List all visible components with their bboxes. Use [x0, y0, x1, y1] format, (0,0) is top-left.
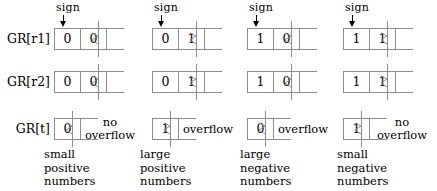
register-tail — [395, 28, 413, 50]
overflow-annotation-col-2: overflow — [178, 123, 238, 136]
break-zigzag-icon — [187, 75, 201, 90]
caption-col-2: large positive numbers — [140, 148, 191, 189]
caption-col-4: small negative numbers — [337, 148, 388, 189]
figure-canvas: sign GR[r1] 0 0 GR[r2] 0 0 GR[t] 0 no ov… — [0, 0, 437, 191]
bit-cell: 1 — [343, 28, 369, 50]
caption-line: small — [44, 148, 95, 162]
sign-arrow-icon-col-1 — [59, 15, 68, 27]
register-tail — [106, 71, 124, 93]
bit-cell: 1 — [343, 71, 369, 93]
break-zigzag-icon — [256, 122, 270, 137]
caption-line: large — [240, 148, 291, 162]
register-tail — [395, 71, 413, 93]
caption-line: numbers — [240, 175, 291, 189]
break-zigzag-icon — [187, 32, 201, 47]
sign-arrow-icon-col-4 — [348, 15, 357, 27]
caption-col-1: small positive numbers — [44, 148, 95, 189]
register-tail — [106, 28, 124, 50]
bit-cell: 0 — [54, 28, 80, 50]
sign-arrow-icon-col-3 — [252, 15, 261, 27]
caption-line: small — [337, 148, 388, 162]
caption-line: positive — [44, 162, 95, 176]
break-zigzag-icon — [282, 32, 296, 47]
sign-label-col-2: sign — [138, 2, 194, 14]
overflow-annotation-line-2: overflow — [372, 129, 432, 142]
sign-label-col-3: sign — [233, 2, 289, 14]
break-zigzag-icon — [352, 122, 366, 137]
register-tail — [204, 71, 222, 93]
caption-line: numbers — [337, 175, 388, 189]
register-tail — [204, 28, 222, 50]
break-zigzag-icon — [378, 32, 392, 47]
break-zigzag-icon — [282, 75, 296, 90]
break-zigzag-icon — [378, 75, 392, 90]
caption-line: numbers — [44, 175, 95, 189]
caption-line: negative — [240, 162, 291, 176]
overflow-annotation-col-1: no overflow — [82, 116, 138, 141]
caption-col-3: large negative numbers — [240, 148, 291, 189]
sign-label-col-4: sign — [329, 2, 385, 14]
caption-line: large — [140, 148, 191, 162]
bit-cell: 0 — [54, 71, 80, 93]
bit-cell: 1 — [247, 71, 273, 93]
overflow-annotation-col-4: no overflow — [372, 116, 432, 141]
break-zigzag-icon — [89, 75, 103, 90]
caption-line: numbers — [140, 175, 191, 189]
register-tail — [299, 28, 317, 50]
bit-cell: 0 — [152, 28, 178, 50]
overflow-annotation-col-3: overflow — [273, 123, 333, 136]
break-zigzag-icon — [161, 122, 175, 137]
break-zigzag-icon — [89, 32, 103, 47]
overflow-annotation-line-1: no — [82, 116, 138, 129]
caption-line: positive — [140, 162, 191, 176]
row-label-gr-t-col-1: GR[t] — [0, 122, 50, 136]
overflow-annotation-line-1: no — [372, 116, 432, 129]
row-label-gr-r2-col-1: GR[r2] — [0, 75, 50, 89]
row-label-gr-r1-col-1: GR[r1] — [0, 32, 50, 46]
overflow-annotation-line-1: overflow — [178, 123, 238, 136]
sign-arrow-icon-col-2 — [157, 15, 166, 27]
bit-cell: 0 — [152, 71, 178, 93]
break-zigzag-icon — [63, 122, 77, 137]
overflow-annotation-line-2: overflow — [82, 129, 138, 142]
bit-cell: 1 — [247, 28, 273, 50]
register-tail — [299, 71, 317, 93]
sign-label-col-1: sign — [40, 2, 96, 14]
caption-line: negative — [337, 162, 388, 176]
overflow-annotation-line-1: overflow — [273, 123, 333, 136]
